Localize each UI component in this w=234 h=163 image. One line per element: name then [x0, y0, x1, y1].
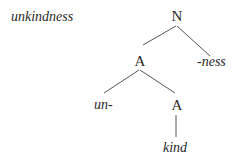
- word-label: unkindness: [11, 10, 73, 24]
- edge-n-a: [143, 26, 176, 45]
- edge-a-un: [104, 70, 139, 93]
- node-a: A: [135, 54, 146, 69]
- node-n: N: [172, 9, 183, 24]
- node-ness: -ness: [197, 55, 226, 69]
- node-a2: A: [172, 98, 183, 113]
- tree-edges: [0, 0, 234, 163]
- edge-n-ness: [177, 26, 210, 56]
- node-kind: kind: [163, 141, 187, 155]
- node-un: un-: [94, 98, 113, 112]
- edge-a-a2: [140, 70, 175, 93]
